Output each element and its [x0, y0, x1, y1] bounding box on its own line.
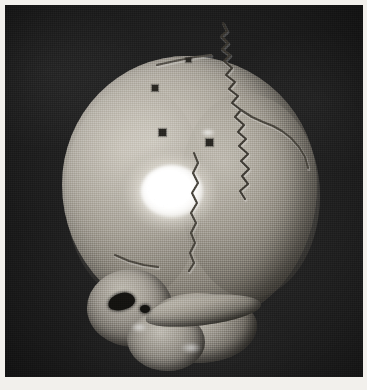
base-foramen [140, 305, 150, 313]
foramen-2 [159, 129, 166, 136]
figure-plate [0, 0, 367, 390]
foramen-4 [186, 58, 191, 62]
gleam-mastoid [131, 323, 147, 332]
photograph-field [5, 5, 363, 377]
specular-highlight-core [141, 165, 203, 217]
gleam-suture [201, 129, 215, 136]
foramen-1 [152, 85, 158, 91]
foramen-3 [206, 139, 213, 146]
gleam-base [181, 343, 201, 353]
